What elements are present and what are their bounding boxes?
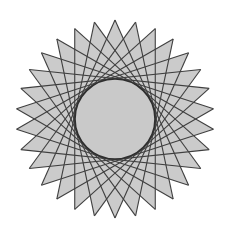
inner-circle	[75, 79, 155, 159]
star-polygon-figure	[0, 0, 228, 236]
